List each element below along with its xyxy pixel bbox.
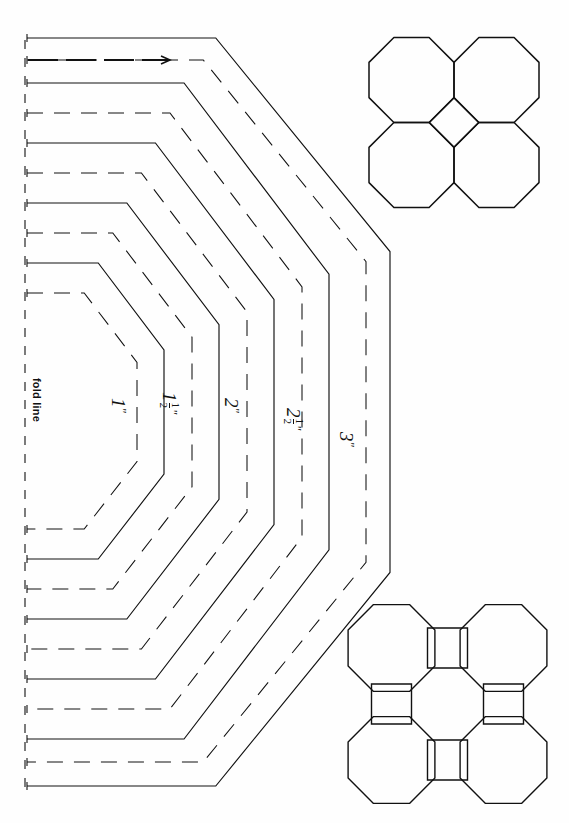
size-label-unit: " [228, 408, 243, 413]
fraction-denominator: 2 [158, 403, 169, 409]
size-label-fraction: 12 [282, 419, 305, 425]
pattern-sheet-page: fold line 1"112"2"212"3" [0, 0, 569, 823]
fraction-numerator: 1 [294, 419, 305, 425]
size-label-fraction: 12 [158, 403, 181, 409]
size-label-whole: 1 [159, 392, 180, 402]
fold-line-label: fold line [31, 378, 43, 422]
size-label-size-3: 3" [335, 432, 358, 447]
octagon-square-tiling-spaced [348, 605, 547, 804]
direction-arrow [28, 56, 170, 64]
size-label-unit: " [115, 408, 130, 413]
octagon-square-tiling-tight [369, 38, 539, 208]
size-label-unit: " [166, 409, 181, 414]
size-label-unit: " [343, 442, 358, 447]
size-label-whole: 2 [221, 398, 242, 408]
nested-octagon-rings [27, 34, 390, 790]
size-label-size-2-5: 212" [282, 408, 305, 430]
size-label-unit: " [290, 425, 305, 430]
size-label-size-1-5: 112" [158, 392, 181, 414]
fraction-numerator: 1 [170, 403, 181, 409]
size-label-whole: 3 [336, 432, 357, 442]
size-label-whole: 1 [108, 398, 129, 408]
size-label-whole: 2 [283, 408, 304, 418]
size-label-size-2: 2" [220, 398, 243, 413]
size-label-size-1: 1" [107, 398, 130, 413]
fraction-denominator: 2 [282, 419, 293, 425]
